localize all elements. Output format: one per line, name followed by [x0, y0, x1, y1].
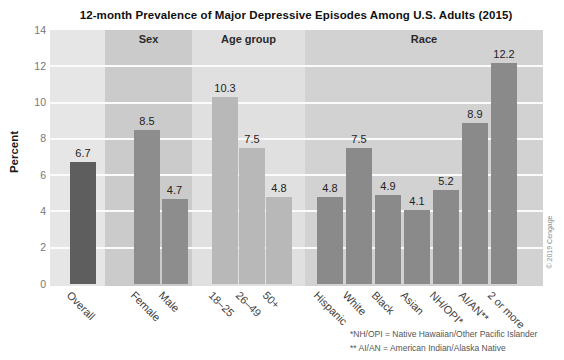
bar-26-49: [239, 148, 265, 284]
y-tick-label-2: 2: [16, 241, 46, 253]
bar-50: [266, 197, 292, 284]
bar-value-2-or-more: 12.2: [484, 48, 524, 60]
x-tick-label-26-49: 26–49: [234, 289, 264, 319]
bar-nh-opi: [433, 190, 459, 284]
x-tick-label-50: 50+: [261, 289, 283, 311]
bar-value-asian: 4.1: [397, 195, 437, 207]
bar-value-male: 4.7: [155, 184, 195, 196]
y-tick-label-14: 14: [16, 24, 46, 36]
x-tick-label-female: Female: [129, 289, 163, 323]
grid-line-12: [50, 65, 543, 67]
bar-value-ai-an: 8.9: [455, 108, 495, 120]
group-header-age-group: Age group: [221, 33, 276, 45]
depression-prevalence-bar-chart: 12-month Prevalence of Major Depressive …: [0, 0, 564, 360]
y-tick-label-6: 6: [16, 169, 46, 181]
bar-ai-an: [462, 123, 488, 284]
bar-white: [346, 148, 372, 284]
bar-female: [134, 130, 160, 284]
copyright-note: © 2019 Cengage: [546, 215, 553, 268]
bar-asian: [404, 210, 430, 284]
bar-value-overall: 6.7: [63, 147, 103, 159]
bar-value-nh-opi: 5.2: [426, 175, 466, 187]
chart-title: 12-month Prevalence of Major Depressive …: [40, 9, 552, 21]
x-tick-label-black: Black: [370, 289, 398, 317]
y-tick-label-8: 8: [16, 132, 46, 144]
bar-value-50: 4.8: [259, 182, 299, 194]
y-tick-label-10: 10: [16, 96, 46, 108]
bar-2-or-more: [491, 63, 517, 284]
bar-value-26-49: 7.5: [232, 133, 272, 145]
group-header-sex: Sex: [139, 33, 159, 45]
bar-value-18-25: 10.3: [205, 82, 245, 94]
y-tick-label-0: 0: [16, 278, 46, 290]
x-tick-label-overall: Overall: [65, 289, 98, 322]
x-tick-label-male: Male: [156, 289, 181, 314]
y-tick-label-4: 4: [16, 205, 46, 217]
group-header-race: Race: [411, 33, 437, 45]
footnote-nhopi: *NH/OPI = Native Hawaiian/Other Pacific …: [350, 329, 537, 339]
bar-black: [375, 195, 401, 284]
bar-male: [162, 199, 188, 284]
x-tick-label-18-25: 18–25: [207, 289, 237, 319]
bar-value-hispanic: 4.8: [310, 182, 350, 194]
bar-18-25: [212, 97, 238, 284]
footnote-aian: ** AI/AN = American Indian/Alaska Native: [350, 343, 506, 353]
bar-value-white: 7.5: [339, 133, 379, 145]
bar-overall: [70, 162, 96, 284]
grid-line-10: [50, 102, 543, 104]
bar-value-black: 4.9: [368, 180, 408, 192]
x-tick-label-asian: Asian: [399, 289, 427, 317]
bar-value-female: 8.5: [127, 115, 167, 127]
x-tick-label-2-or-more: 2 or more: [486, 289, 528, 331]
bar-hispanic: [317, 197, 343, 284]
y-tick-label-12: 12: [16, 60, 46, 72]
